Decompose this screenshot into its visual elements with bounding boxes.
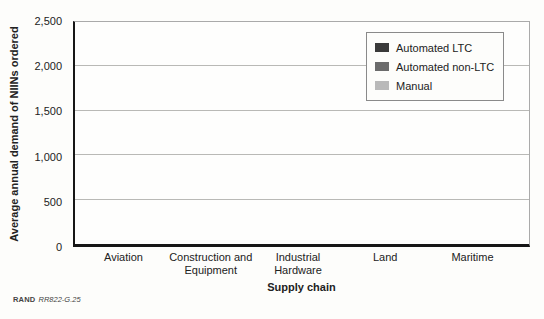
source-figure-id: RR822-G.25 [38,295,80,304]
y-tick-label: 500 [44,196,62,208]
legend-label: Automated LTC [396,42,472,54]
y-tick-label: 1,500 [34,105,62,117]
chart-figure: Average annual demand of NIINs ordered 0… [0,0,544,319]
plot-area: Automated LTCAutomated non-LTCManual [73,21,530,247]
legend-swatch [375,62,389,71]
source-brand: RAND [13,295,35,304]
legend: Automated LTCAutomated non-LTCManual [366,32,504,101]
source-note: RANDRR822-G.25 [13,295,81,304]
x-category-label: Land [342,251,429,277]
legend-item-automated-non-ltc: Automated non-LTC [375,57,494,76]
legend-label: Manual [396,80,432,92]
y-axis-ticks: 05001,0001,5002,0002,500 [0,21,68,247]
x-axis-labels: AviationConstruction and EquipmentIndust… [80,251,516,277]
legend-item-automated-ltc: Automated LTC [375,38,494,57]
x-category-label: Construction and Equipment [167,251,254,277]
x-axis-title: Supply chain [73,281,530,293]
x-category-label: Aviation [80,251,167,277]
y-tick-label: 1,000 [34,151,62,163]
y-tick-label: 2,500 [34,15,62,27]
x-category-label: Industrial Hardware [255,251,342,277]
legend-swatch [375,81,389,90]
x-category-label: Maritime [429,251,516,277]
legend-swatch [375,43,389,52]
legend-label: Automated non-LTC [396,61,494,73]
legend-item-manual: Manual [375,76,494,95]
y-tick-label: 0 [56,241,62,253]
y-tick-label: 2,000 [34,60,62,72]
